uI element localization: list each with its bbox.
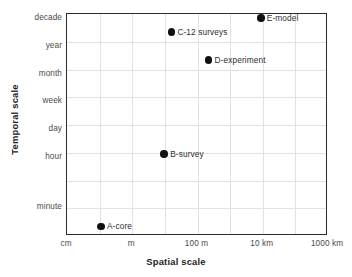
data-point-marker [97, 223, 105, 231]
gridline-horizontal [67, 42, 326, 43]
x-axis-tick-label: 100 m [185, 239, 208, 248]
gridline-horizontal [67, 181, 326, 182]
y-axis-tick-label: year [0, 40, 62, 49]
gridline-vertical [295, 14, 296, 234]
data-point-label: C-12 surveys [177, 27, 227, 37]
y-axis-tick-label: minute [0, 201, 62, 210]
gridline-horizontal [67, 70, 326, 71]
data-point-label: E-model [267, 13, 299, 23]
data-point-label: A-core [107, 221, 132, 231]
data-point-marker [168, 28, 176, 36]
y-axis-title: Temporal scale [9, 50, 20, 190]
gridline-vertical [100, 14, 101, 234]
gridline-horizontal [67, 208, 326, 209]
gridline-vertical [132, 14, 133, 234]
x-axis-tick-label: 10 km [250, 239, 273, 248]
x-axis-tick-label: m [128, 239, 135, 248]
x-axis-title: Spatial scale [0, 256, 352, 267]
plot-area: A-coreB-surveyC-12 surveysD-experimentE-… [66, 13, 327, 235]
data-point-marker [257, 14, 265, 22]
x-axis-tick-label: cm [60, 239, 71, 248]
gridline-vertical [230, 14, 231, 234]
data-point-label: B-survey [170, 149, 204, 159]
gridline-vertical [263, 14, 264, 234]
gridline-horizontal [67, 125, 326, 126]
gridline-vertical [165, 14, 166, 234]
gridline-vertical [198, 14, 199, 234]
gridline-horizontal [67, 97, 326, 98]
y-axis-tick-label: decade [0, 13, 62, 22]
scatter-chart-figure: A-coreB-surveyC-12 surveysD-experimentE-… [0, 0, 352, 277]
data-point-marker [160, 150, 168, 158]
data-point-marker [205, 56, 213, 64]
x-axis-tick-label: 1000 km [311, 239, 343, 248]
data-point-label: D-experiment [215, 55, 266, 65]
